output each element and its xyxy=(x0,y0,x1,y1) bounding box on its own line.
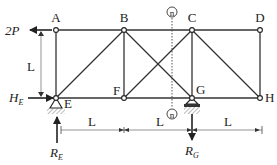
reaction-HE-label: HE xyxy=(8,90,23,107)
reaction-RE-label: RE xyxy=(49,145,63,162)
label-A: A xyxy=(51,10,61,25)
joint-E xyxy=(54,96,59,101)
label-B: B xyxy=(120,10,129,25)
joint-C xyxy=(190,28,195,33)
label-C: C xyxy=(188,10,197,25)
joint-B xyxy=(122,28,127,33)
reaction-HE: HE xyxy=(8,90,53,107)
section-label-bottom: n xyxy=(170,110,175,120)
label-E: E xyxy=(64,96,72,111)
truss-members xyxy=(56,30,260,98)
label-G: G xyxy=(196,82,205,97)
span-label-2: L xyxy=(156,114,164,129)
section-label-top: n xyxy=(170,8,175,18)
joint-G xyxy=(190,96,195,101)
reaction-RE: RE xyxy=(49,117,63,162)
label-F: F xyxy=(113,83,120,98)
height-dimension: L xyxy=(27,31,44,97)
label-D: D xyxy=(255,10,264,25)
span-dimensions: L L L xyxy=(61,114,262,134)
height-label: L xyxy=(27,59,35,74)
reaction-RG: RG xyxy=(184,114,199,160)
reaction-RG-label: RG xyxy=(184,143,199,160)
joint-H xyxy=(258,96,263,101)
truss-diagram: n n A B C D E F G xyxy=(0,0,277,165)
span-label-3: L xyxy=(224,114,232,129)
load-2P-label: 2P xyxy=(5,23,20,38)
joint-D xyxy=(258,28,263,33)
joint-A xyxy=(54,28,59,33)
load-2P: 2P xyxy=(5,23,52,38)
label-H: H xyxy=(265,90,274,105)
span-label-1: L xyxy=(88,114,96,129)
joint-F xyxy=(122,96,127,101)
section-line-n: n n xyxy=(167,7,177,120)
